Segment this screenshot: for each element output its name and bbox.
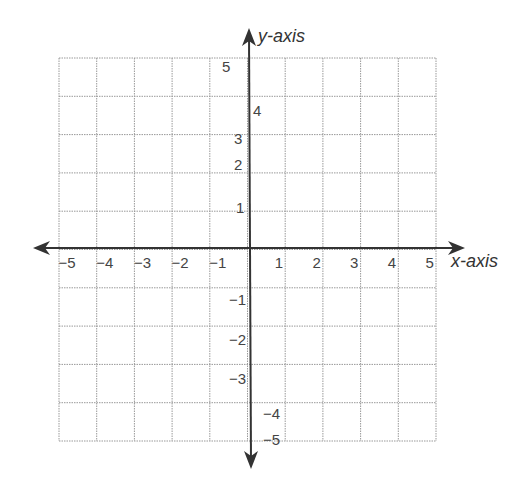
x-tick-label: 1 — [275, 255, 283, 270]
x-tick-label: 3 — [350, 255, 358, 270]
y-tick-label: −4 — [263, 406, 280, 421]
x-tick-label: −1 — [209, 255, 226, 270]
y-tick-label: 5 — [222, 59, 230, 74]
y-tick-label: −1 — [229, 292, 246, 307]
grid-lines — [59, 58, 436, 441]
x-tick-label: 2 — [312, 255, 320, 270]
x-tick-label: −5 — [59, 255, 76, 270]
y-tick-label: −5 — [263, 432, 280, 447]
x-axis-title: x-axis — [451, 252, 498, 270]
x-tick-label: 5 — [426, 255, 434, 270]
x-tick-label: −2 — [172, 255, 189, 270]
y-tick-label: 3 — [234, 131, 242, 146]
x-tick-label: 4 — [388, 255, 396, 270]
y-tick-label: −3 — [229, 371, 246, 386]
x-tick-label: −3 — [134, 255, 151, 270]
y-tick-label: −2 — [229, 332, 246, 347]
y-axis-line — [249, 35, 251, 462]
y-tick-label: 1 — [236, 200, 244, 215]
x-tick-label: −4 — [96, 255, 113, 270]
y-tick-label: 4 — [253, 103, 261, 118]
y-tick-label: 2 — [234, 157, 242, 172]
y-axis-title: y-axis — [258, 27, 305, 45]
